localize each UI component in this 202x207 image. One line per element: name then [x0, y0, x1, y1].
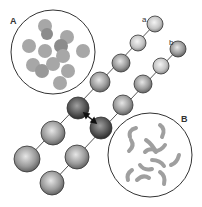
chain-label-a: a [142, 15, 147, 24]
chain-label-b: b [169, 38, 174, 47]
panel-a-inset [11, 10, 95, 94]
panel-label-b: B [181, 114, 188, 124]
diagram: A B a b [0, 0, 202, 207]
panel-b-inset [108, 113, 192, 197]
panel-label-a: A [10, 16, 17, 26]
double-arrow-icon [84, 113, 96, 123]
